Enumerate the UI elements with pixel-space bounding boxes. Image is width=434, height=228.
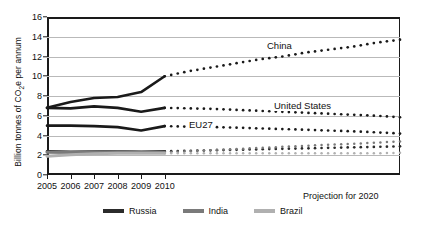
y-axis-title-subscript: 2 (18, 86, 25, 90)
projection-dot (274, 56, 277, 59)
projection-dot (399, 152, 402, 155)
x-tick-label: 2007 (84, 181, 104, 191)
projection-dot (386, 115, 389, 118)
projection-dot (392, 132, 395, 135)
projection-dot (353, 152, 356, 155)
projection-dot (301, 145, 304, 148)
projection-dot (359, 114, 362, 117)
y-tick-label: 8 (37, 92, 42, 101)
projection-dot (229, 152, 232, 155)
projection-dot (386, 145, 389, 148)
projection-dot (281, 128, 284, 131)
projection-dot (333, 146, 336, 149)
projection-dot (301, 111, 304, 114)
y-tick-label: 6 (37, 111, 42, 120)
projection-dot (268, 127, 271, 130)
projection-dot (366, 114, 369, 117)
projection-dot (261, 127, 264, 130)
projection-dot (288, 145, 291, 148)
projection-dot (359, 146, 362, 149)
projection-dot (379, 41, 382, 44)
series-label-china: China (265, 41, 294, 51)
projection-dot (307, 51, 310, 54)
projection-dot (235, 109, 238, 112)
projection-dot (216, 152, 219, 155)
y-axis-title-prefix: Billion tonnes of CO (13, 90, 23, 167)
projection-dot (229, 108, 232, 111)
legend-item-russia[interactable]: Russia (103, 206, 157, 216)
projection-dot (216, 65, 219, 68)
projection-dot (235, 148, 238, 151)
y-tick-label: 4 (37, 131, 42, 140)
projection-dot (281, 152, 284, 155)
projection-dot (255, 147, 258, 150)
projection-dot (288, 54, 291, 57)
y-axis-title-suffix: e per annum (13, 37, 23, 86)
projection-dot (314, 112, 317, 115)
projection-dot (203, 152, 206, 155)
projection-dot (163, 125, 166, 128)
projection-dot (183, 71, 186, 74)
projection-dot (189, 107, 192, 110)
projection-dot (301, 147, 304, 150)
projection-dot (366, 152, 369, 155)
projection-dot (203, 67, 206, 70)
projection-dot (170, 74, 173, 77)
projection-dot (346, 146, 349, 149)
y-tick-label: 12 (32, 52, 42, 61)
series-label-united-states: United States (272, 101, 333, 111)
projection-dot (170, 125, 173, 128)
x-tick-label: 2009 (131, 181, 151, 191)
projection-dot (360, 142, 363, 145)
series-brazil (47, 152, 401, 157)
projection-dot (353, 113, 356, 116)
historical-line (47, 153, 165, 156)
projection-dot (248, 147, 251, 150)
projection-dot (261, 147, 264, 150)
projection-dot (209, 152, 212, 155)
projection-dot (288, 128, 291, 131)
projection-dot (163, 107, 166, 110)
projection-dot (196, 150, 199, 153)
projection-dot (327, 48, 330, 51)
projection-dot (294, 111, 297, 114)
legend-item-brazil[interactable]: Brazil (254, 206, 303, 216)
emissions-projection-chart: Billion tonnes of CO2e per annum 0246810… (0, 0, 434, 228)
legend-item-india[interactable]: India (183, 206, 229, 216)
x-tick-mark (141, 175, 142, 179)
projection-dot (261, 58, 264, 61)
projection-dot (268, 146, 271, 149)
projection-dot (301, 128, 304, 131)
y-tick-label: 10 (32, 72, 42, 81)
projection-dot (379, 141, 382, 144)
legend-swatch (254, 209, 275, 212)
x-tick-mark (118, 175, 119, 179)
projection-dot (399, 38, 402, 41)
historical-line (47, 76, 165, 108)
projection-dot (327, 129, 330, 132)
historical-line (47, 106, 165, 111)
projection-dot (235, 126, 238, 129)
series-layer (47, 17, 400, 175)
projection-dot (340, 47, 343, 50)
projection-dot (320, 129, 323, 132)
projection-dot (340, 130, 343, 133)
projection-dot (399, 145, 402, 148)
y-tick-label: 0 (37, 171, 42, 180)
projection-dot (346, 113, 349, 116)
projection-dot (294, 152, 297, 155)
projection-dot (386, 141, 389, 144)
projection-dot (209, 149, 212, 152)
projection-dot (373, 114, 376, 117)
projection-dot (399, 116, 402, 119)
projection-dot (307, 147, 310, 150)
projection-dot (176, 107, 179, 110)
projection-dot (248, 152, 251, 155)
projection-dot (366, 146, 369, 149)
projection-dot (216, 126, 219, 129)
projection-caption: Projection for 2020 (303, 191, 379, 201)
projection-dot (379, 145, 382, 148)
x-tick-mark (47, 175, 48, 179)
projection-dot (379, 115, 382, 118)
projection-dot (203, 107, 206, 110)
